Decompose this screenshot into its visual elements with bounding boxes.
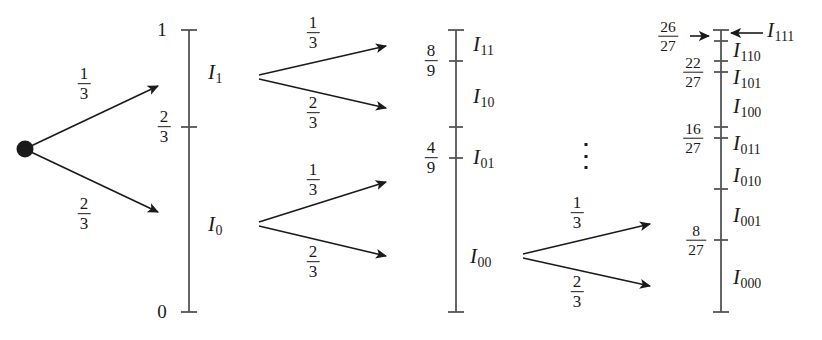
interval-label-I100: I100	[733, 94, 761, 119]
interval-label-I011: I011	[733, 131, 760, 156]
fraction-denominator: 3	[571, 292, 584, 311]
axis-2-tick-label-4-9: 4 9	[425, 139, 438, 177]
fraction-numerator: 1	[571, 194, 584, 212]
interval-subscript: 001	[740, 214, 761, 229]
fraction-denominator: 27	[686, 240, 706, 258]
fraction-numerator: 22	[683, 55, 703, 72]
fraction-numerator: 8	[690, 223, 702, 240]
branch-label-I0-upper: 1 3	[307, 161, 320, 199]
branch-root-to-I0	[31, 152, 158, 212]
interval-label-I000: I000	[733, 265, 761, 290]
cantor-subdivision-figure: 1 3 2 3 1 0 2 3 I1 I0 1 3 2 3 1 3 2 3 8 …	[0, 0, 822, 340]
branch-label-root-upper: 1 3	[78, 65, 91, 103]
branch-label-I1-upper: 1 3	[307, 14, 320, 52]
branch-label-I00-lower: 2 3	[571, 273, 584, 311]
axis-level-3	[713, 30, 729, 312]
fraction-denominator: 3	[307, 262, 320, 281]
interval-label-I01: I01	[473, 145, 494, 170]
vertical-ellipsis-icon	[585, 143, 588, 169]
interval-subscript: 00	[477, 255, 491, 270]
interval-subscript: 110	[740, 49, 760, 64]
interval-subscript: 000	[740, 276, 761, 291]
fraction-numerator: 26	[658, 19, 678, 36]
fraction-numerator: 2	[307, 243, 320, 261]
axis-3-tick-label-16-27: 16 27	[683, 121, 703, 156]
branch-I0-to-I01	[259, 182, 386, 222]
fraction-numerator: 16	[683, 121, 703, 138]
fraction-denominator: 3	[78, 214, 91, 233]
fraction-denominator: 27	[683, 72, 703, 90]
interval-subscript: 01	[480, 156, 494, 171]
fraction-numerator: 4	[425, 139, 438, 157]
axis-3-tick-label-26-27: 26 27	[658, 19, 678, 54]
fraction-numerator: 1	[307, 161, 320, 179]
interval-subscript: 11	[480, 43, 493, 58]
fraction-numerator: 2	[78, 195, 91, 213]
branch-label-I0-lower: 2 3	[307, 243, 320, 281]
branch-label-root-lower: 2 3	[78, 195, 91, 233]
interval-subscript: 101	[740, 76, 761, 91]
figure-vector-layer	[0, 0, 822, 340]
branch-I00-to-I001	[523, 224, 650, 254]
interval-label-I00: I00	[470, 244, 491, 269]
fraction-denominator: 9	[425, 61, 438, 80]
interval-subscript: 111	[774, 29, 794, 44]
fraction-denominator: 3	[78, 84, 91, 103]
interval-subscript: 1	[215, 71, 222, 86]
interval-subscript: 10	[480, 95, 494, 110]
fraction-denominator: 27	[683, 138, 703, 156]
fraction-numerator: 8	[425, 42, 438, 60]
root-node-dot	[17, 141, 34, 158]
axis-1-top-label: 1	[157, 19, 167, 41]
axis-1-bottom-label: 0	[157, 301, 167, 323]
branch-label-I1-lower: 2 3	[307, 94, 320, 132]
interval-subscript: 100	[740, 105, 761, 120]
branch-I1-to-I11	[259, 46, 386, 75]
fraction-denominator: 3	[307, 180, 320, 199]
branch-I00-to-I000	[523, 258, 650, 286]
fraction-denominator: 9	[425, 158, 438, 177]
interval-label-I001: I001	[733, 203, 761, 228]
fraction-denominator: 3	[571, 213, 584, 232]
interval-label-I101: I101	[733, 65, 761, 90]
axis-level-1	[181, 30, 197, 312]
interval-label-I010: I010	[733, 163, 761, 188]
axis-1-tick-label-2-3: 2 3	[158, 108, 171, 146]
fraction-numerator: 1	[78, 65, 91, 83]
interval-label-I10: I10	[473, 84, 494, 109]
interval-label-I1: I1	[208, 60, 222, 85]
interval-label-I111: I111	[767, 18, 794, 43]
branch-I0-to-I00	[259, 226, 386, 256]
fraction-denominator: 3	[158, 127, 171, 146]
interval-label-I0: I0	[208, 212, 222, 237]
interval-label-I110: I110	[733, 38, 760, 63]
branch-root-to-I1	[31, 86, 158, 146]
axis-3-tick-label-8-27: 8 27	[686, 223, 706, 258]
fraction-numerator: 1	[307, 14, 320, 32]
interval-label-I11: I11	[473, 32, 494, 57]
fraction-denominator: 3	[307, 33, 320, 52]
interval-subscript: 011	[740, 142, 760, 157]
interval-subscript: 010	[740, 174, 761, 189]
interval-subscript: 0	[215, 223, 222, 238]
axis-2-tick-label-8-9: 8 9	[425, 42, 438, 80]
axis-level-2	[448, 30, 464, 312]
fraction-denominator: 27	[658, 36, 678, 54]
branch-I1-to-I10	[259, 79, 386, 108]
branch-label-I00-upper: 1 3	[571, 194, 584, 232]
fraction-numerator: 2	[307, 94, 320, 112]
fraction-numerator: 2	[158, 108, 171, 126]
fraction-denominator: 3	[307, 113, 320, 132]
axis-3-tick-label-22-27: 22 27	[683, 55, 703, 90]
fraction-numerator: 2	[571, 273, 584, 291]
